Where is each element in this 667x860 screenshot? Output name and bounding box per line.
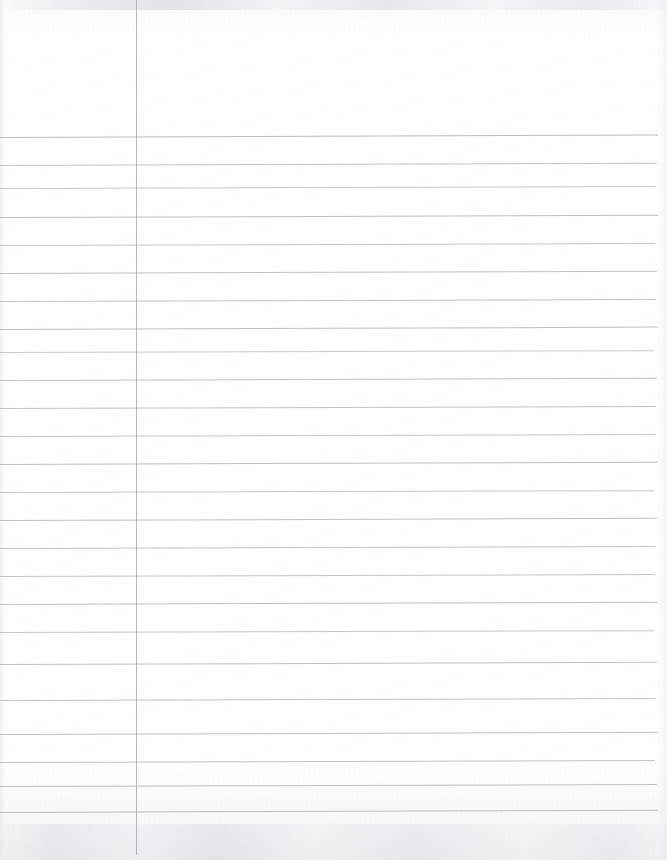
scanned-notebook-page [0,0,667,860]
header-area [0,0,667,137]
footer-area [0,812,667,860]
